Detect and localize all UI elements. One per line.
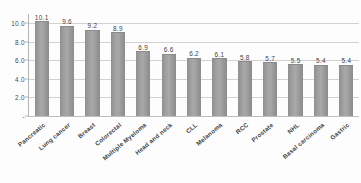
bar	[314, 65, 328, 116]
bar-value-label: 6.6	[164, 46, 174, 53]
y-tick-label: 8.0	[0, 38, 25, 45]
x-label-slot: Prostate	[258, 118, 283, 182]
bar-chart: 10.08.06.04.02.0- 10.19.69.28.96.96.66.2…	[0, 0, 361, 183]
y-tick-label: 6.0	[0, 57, 25, 64]
bar-value-label: 8.9	[113, 25, 123, 32]
x-axis-category-label: Breast	[77, 121, 97, 140]
x-axis-labels: PancreaticLung cancerBreastColorectalMul…	[29, 118, 359, 182]
bar-slot: 9.2	[80, 14, 105, 116]
bar	[339, 65, 353, 116]
plot-area: 10.19.69.28.96.96.66.26.15.85.75.55.45.4	[29, 14, 359, 116]
bar-slot: 5.4	[308, 14, 333, 116]
bar-series: 10.19.69.28.96.96.66.26.15.85.75.55.45.4	[29, 14, 359, 116]
y-tick-mark	[25, 78, 28, 79]
bar-slot: 5.7	[258, 14, 283, 116]
bar-slot: 6.1	[207, 14, 232, 116]
bar	[288, 64, 302, 116]
bar-value-label: 9.2	[88, 22, 98, 29]
bar-value-label: 6.2	[189, 50, 199, 57]
x-label-slot: RCC	[232, 118, 257, 182]
x-label-slot: Breast	[80, 118, 105, 182]
bar-slot: 9.6	[54, 14, 79, 116]
bar-slot: 6.6	[156, 14, 181, 116]
y-tick-mark	[25, 23, 28, 24]
gridline	[28, 116, 359, 117]
bar-value-label: 10.1	[35, 14, 49, 21]
y-tick-label: 4.0	[0, 75, 25, 82]
x-label-slot: Basal carcinoma	[308, 118, 333, 182]
bar	[263, 62, 277, 116]
bar-value-label: 9.6	[62, 18, 72, 25]
y-tick-label: 2.0	[0, 94, 25, 101]
x-axis-category-label: RCC	[234, 121, 249, 135]
x-label-slot: Head and neck	[156, 118, 181, 182]
bar-slot: 5.8	[232, 14, 257, 116]
bar-value-label: 6.1	[215, 51, 225, 58]
y-tick-mark	[25, 41, 28, 42]
x-label-slot: CLL	[181, 118, 206, 182]
bar	[238, 61, 252, 116]
bar-value-label: 5.5	[291, 57, 301, 64]
y-tick-mark	[25, 60, 28, 61]
bar-slot: 5.4	[334, 14, 359, 116]
bar	[111, 32, 125, 116]
x-label-slot: Melanoma	[207, 118, 232, 182]
bar	[162, 54, 176, 116]
bar	[136, 51, 150, 116]
bar-slot: 10.1	[29, 14, 54, 116]
bar-slot: 5.5	[283, 14, 308, 116]
bar-value-label: 5.4	[341, 57, 351, 64]
bar-slot: 8.9	[105, 14, 130, 116]
y-tick-mark	[25, 97, 28, 98]
x-axis-category-label: CLL	[184, 121, 198, 134]
bar-slot: 6.9	[131, 14, 156, 116]
bar-slot: 6.2	[181, 14, 206, 116]
y-tick-label: -	[0, 113, 25, 120]
bar	[60, 26, 74, 116]
bar-value-label: 6.9	[138, 44, 148, 51]
bar-value-label: 5.4	[316, 57, 326, 64]
bar-value-label: 5.7	[265, 55, 275, 62]
y-tick-label: 10.0	[0, 20, 25, 27]
bar	[187, 58, 201, 116]
bar	[212, 58, 226, 116]
y-tick-mark	[25, 116, 28, 117]
x-label-slot: Gastric	[334, 118, 359, 182]
x-label-slot: Lung cancer	[54, 118, 79, 182]
x-axis-category-label: NHL	[285, 121, 300, 135]
bar	[85, 30, 99, 116]
bar	[35, 21, 49, 116]
bar-value-label: 5.8	[240, 54, 250, 61]
